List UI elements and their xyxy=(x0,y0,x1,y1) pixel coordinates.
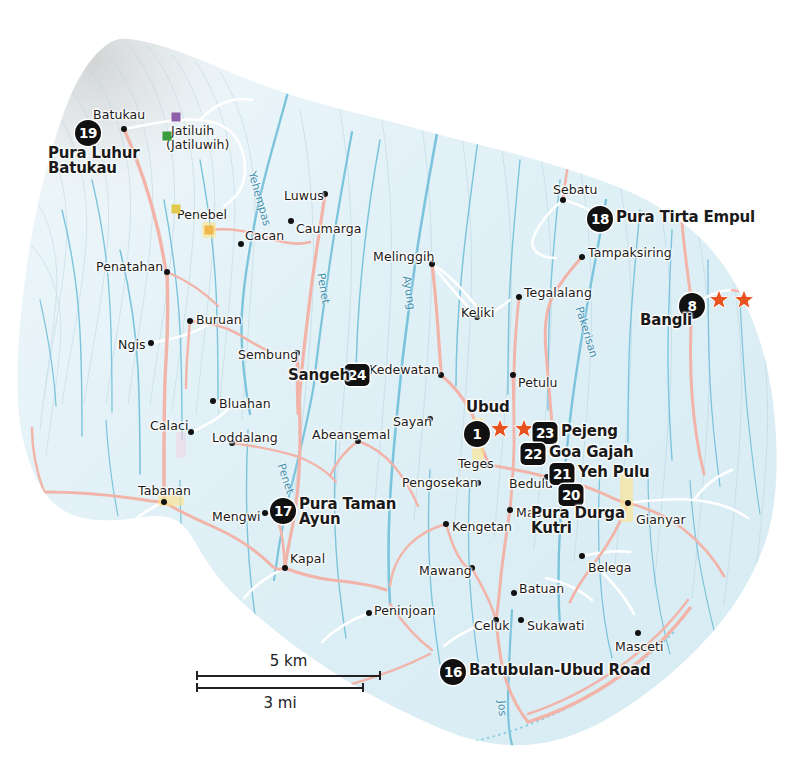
poi-badge-20[interactable]: 20 xyxy=(559,484,584,506)
poi-label-24: Sangeh xyxy=(288,368,350,383)
scale-mi-label: 3 mi xyxy=(196,694,364,712)
scale-bar: 5 km 3 mi xyxy=(196,652,381,712)
poi-label-8: Bangli xyxy=(640,313,692,328)
poi-badge-1[interactable]: 1 xyxy=(464,421,490,447)
poi-label-17: Pura TamanAyun xyxy=(299,497,396,527)
poi-label-18: Pura Tirta Empul xyxy=(616,210,755,225)
poi-badge-18[interactable]: 18 xyxy=(587,206,613,232)
poi-label-line: Bangli xyxy=(640,313,692,328)
poi-badge-19[interactable]: 19 xyxy=(75,120,101,146)
poi-label-line: Batubulan-Ubud Road xyxy=(469,663,650,678)
poi-label-line: Ubud xyxy=(466,400,510,415)
poi-label-21: Yeh Pulu xyxy=(578,465,649,480)
poi-label-22: Goa Gajah xyxy=(549,445,634,460)
poi-badge-17[interactable]: 17 xyxy=(270,498,296,524)
poi-label-20: Pura DurgaKutri xyxy=(531,506,625,536)
poi-label-line: Sangeh xyxy=(288,368,350,383)
poi-label-16: Batubulan-Ubud Road xyxy=(469,663,650,678)
poi-label-23: Pejeng xyxy=(561,424,618,439)
scale-km-line xyxy=(196,671,381,680)
poi-label-line: Ayun xyxy=(299,512,396,527)
scale-km-label: 5 km xyxy=(196,652,381,670)
poi-label-line: Pejeng xyxy=(561,424,618,439)
poi-badge-21[interactable]: 21 xyxy=(550,463,575,485)
poi-label-line: Batukau xyxy=(48,161,139,176)
poi-badge-23[interactable]: 23 xyxy=(533,422,558,444)
poi-layer: 19Pura LuhurBatukau18Pura Tirta Empul8Ba… xyxy=(0,0,810,782)
poi-label-line: Goa Gajah xyxy=(549,445,634,460)
poi-label-19: Pura LuhurBatukau xyxy=(48,146,139,176)
map-canvas: YehempasPenetPenetAyungPakerisanJos Batu… xyxy=(0,0,810,782)
poi-badge-22[interactable]: 22 xyxy=(521,443,546,465)
poi-badge-16[interactable]: 16 xyxy=(440,659,466,685)
scale-mi-line xyxy=(196,683,364,692)
poi-label-1: Ubud xyxy=(466,400,510,415)
poi-label-line: Pura Tirta Empul xyxy=(616,210,755,225)
poi-label-line: Yeh Pulu xyxy=(578,465,649,480)
poi-label-line: Kutri xyxy=(531,521,625,536)
